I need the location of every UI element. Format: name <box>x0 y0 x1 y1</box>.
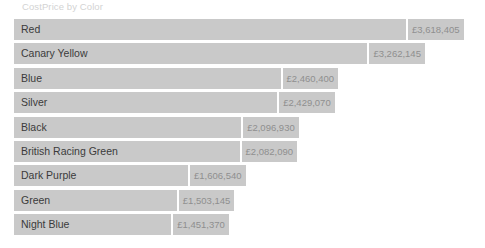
bar-track <box>14 214 462 235</box>
bar-row[interactable]: British Racing Green£2,082,090 <box>14 141 462 162</box>
bar-row[interactable]: Night Blue£1,451,370 <box>14 214 462 235</box>
bar-category-label: Silver <box>21 92 47 113</box>
bar-value-label: £3,262,145 <box>369 43 425 64</box>
bar-row[interactable]: Green£1,503,145 <box>14 190 462 211</box>
bar-track <box>14 68 462 89</box>
bar-value-label: £1,451,370 <box>173 214 229 235</box>
bar-value-label: £2,082,090 <box>242 141 298 162</box>
costprice-by-color-visual[interactable]: CostPrice by Color Red£3,618,405Canary Y… <box>0 0 485 248</box>
bar-value-label: £1,503,145 <box>179 190 235 211</box>
bar-value-label: £3,618,405 <box>408 19 464 40</box>
bar-category-label: Blue <box>21 68 42 89</box>
chart-title: CostPrice by Color <box>22 1 103 12</box>
bar-row[interactable]: Black£2,096,930 <box>14 117 462 138</box>
bar-track <box>14 117 462 138</box>
bar-track <box>14 92 462 113</box>
bar-chart-plot-area[interactable]: Red£3,618,405Canary Yellow£3,262,145Blue… <box>0 19 485 248</box>
bar-category-label: Dark Purple <box>21 165 76 186</box>
bar-row[interactable]: Red£3,618,405 <box>14 19 462 40</box>
bar-value-label: £2,460,400 <box>283 68 339 89</box>
bar-category-label: Green <box>21 190 50 211</box>
bar-row[interactable]: Canary Yellow£3,262,145 <box>14 43 462 64</box>
bar-category-label: Canary Yellow <box>21 43 88 64</box>
bar-row[interactable]: Dark Purple£1,606,540 <box>14 165 462 186</box>
bar-category-label: British Racing Green <box>21 141 118 162</box>
bar-fill[interactable] <box>14 68 281 89</box>
bar-row[interactable]: Silver£2,429,070 <box>14 92 462 113</box>
bar-fill[interactable] <box>14 19 406 40</box>
bar-value-label: £1,606,540 <box>190 165 246 186</box>
bar-row[interactable]: Blue£2,460,400 <box>14 68 462 89</box>
bar-category-label: Black <box>21 117 47 138</box>
bar-value-label: £2,096,930 <box>243 117 299 138</box>
bar-track <box>14 19 462 40</box>
bar-category-label: Night Blue <box>21 214 69 235</box>
bar-fill[interactable] <box>14 92 277 113</box>
bar-fill[interactable] <box>14 117 241 138</box>
bar-track <box>14 190 462 211</box>
bar-category-label: Red <box>21 19 40 40</box>
bar-value-label: £2,429,070 <box>279 92 335 113</box>
